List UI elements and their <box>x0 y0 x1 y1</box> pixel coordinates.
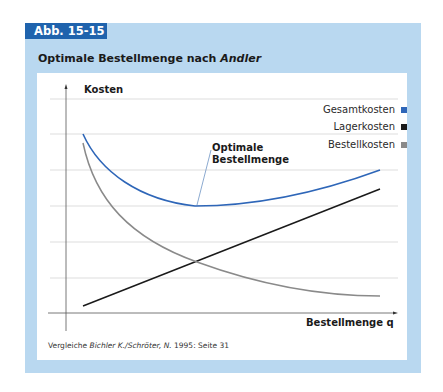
source-note: Vergleiche Bichler K./Schröter, N. 1995:… <box>48 341 229 350</box>
legend-label: Lagerkosten <box>334 121 395 132</box>
legend-bestellkosten: Bestellkosten <box>328 139 407 150</box>
legend-label: Bestellkosten <box>328 139 395 150</box>
legend-swatch-icon <box>401 124 407 130</box>
legend-lagerkosten: Lagerkosten <box>334 121 407 132</box>
chart-svg <box>0 0 443 392</box>
series-lagerkosten <box>83 189 380 306</box>
x-axis-label: Bestellmenge q <box>306 317 394 328</box>
source-prefix: Vergleiche <box>48 341 90 350</box>
legend-swatch-icon <box>401 107 407 113</box>
legend-swatch-icon <box>401 142 407 148</box>
annotation-line2: Bestellmenge <box>212 154 289 165</box>
legend-label: Gesamtkosten <box>323 104 395 115</box>
source-authors: Bichler K./Schröter, N. <box>90 341 172 350</box>
series-bestellkosten <box>83 143 380 296</box>
x-axis-arrow-icon <box>393 312 398 315</box>
annotation-pointer <box>197 150 211 205</box>
y-axis-label: Kosten <box>84 84 123 95</box>
y-axis-arrow-icon <box>65 84 68 89</box>
legend-gesamtkosten: Gesamtkosten <box>323 104 407 115</box>
annotation-line1: Optimale <box>212 142 263 153</box>
source-suffix: 1995: Seite 31 <box>172 341 229 350</box>
